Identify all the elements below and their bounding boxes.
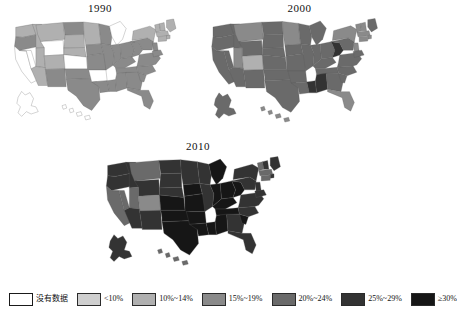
legend-item-ge30: ≥30% xyxy=(411,293,457,306)
legend: 没有数据<10%10%~14%15%~19%20%~24%25%~29%≥30% xyxy=(0,288,401,310)
legend-swatch-lt10 xyxy=(77,293,101,306)
state-hi-1 xyxy=(261,106,266,111)
legend-swatch-b10_14 xyxy=(132,293,156,306)
state-ar xyxy=(288,71,307,83)
state-ut xyxy=(129,187,139,209)
state-me xyxy=(167,19,177,32)
legend-label-lt10: <10% xyxy=(104,294,123,304)
state-hi-2 xyxy=(69,108,74,113)
state-ri xyxy=(167,35,171,39)
map-panel-1990: 1990 xyxy=(2,2,198,138)
legend-item-nodata: 没有数据 xyxy=(9,293,68,306)
map-svg-2010 xyxy=(96,154,301,282)
state-ut xyxy=(234,48,244,69)
state-me xyxy=(270,157,280,171)
state-nm xyxy=(139,210,161,229)
state-ar xyxy=(89,70,107,82)
state-co xyxy=(242,55,263,70)
map-panel-2000: 2000 xyxy=(200,2,399,138)
state-co xyxy=(138,195,160,211)
state-hi-4 xyxy=(85,115,91,120)
state-nm xyxy=(243,70,264,88)
state-mi xyxy=(208,159,226,185)
state-nj xyxy=(353,43,359,52)
state-fl xyxy=(328,89,355,111)
state-al xyxy=(315,73,327,93)
state-al xyxy=(115,72,127,91)
state-nh xyxy=(360,22,366,31)
map-title-1990: 1990 xyxy=(2,2,198,16)
legend-label-ge30: ≥30% xyxy=(438,294,457,304)
legend-label-b15_19: 15%~19% xyxy=(229,294,263,304)
legend-swatch-ge30 xyxy=(411,293,435,306)
state-mt xyxy=(129,160,160,180)
state-mi xyxy=(309,21,326,45)
state-me xyxy=(368,19,378,32)
state-hi-1 xyxy=(62,105,67,110)
legend-item-b25_29: 25%~29% xyxy=(341,293,402,306)
state-sd xyxy=(64,34,85,48)
state-mt xyxy=(234,22,264,42)
state-ri xyxy=(270,174,274,178)
legend-item-b10_14: 10%~14% xyxy=(132,293,193,306)
state-ar xyxy=(186,212,206,225)
state-nh xyxy=(262,160,268,169)
state-ak xyxy=(108,235,131,262)
map-title-2000: 2000 xyxy=(200,2,399,16)
state-nj xyxy=(152,43,158,51)
legend-label-b20_24: 20%~24% xyxy=(299,294,333,304)
map-title-2010: 2010 xyxy=(92,140,304,154)
state-al xyxy=(215,214,228,234)
state-md xyxy=(254,190,266,198)
state-nd xyxy=(262,22,283,35)
map-panel-2010: 2010 xyxy=(92,140,304,282)
state-fl xyxy=(127,88,153,109)
state-nj xyxy=(254,182,260,191)
map-svg-1990 xyxy=(5,16,195,136)
state-mn xyxy=(180,160,199,185)
legend-item-b15_19: 15%~19% xyxy=(202,293,263,306)
legend-swatch-b15_19 xyxy=(202,293,226,306)
state-ct xyxy=(158,36,166,41)
state-ct xyxy=(261,175,270,181)
state-nm xyxy=(45,69,66,87)
state-mt xyxy=(36,23,65,42)
state-hi-4 xyxy=(284,117,290,122)
state-ks xyxy=(262,55,286,70)
state-hi-2 xyxy=(268,110,273,115)
state-ak xyxy=(214,93,236,119)
state-ri xyxy=(368,35,372,39)
legend-item-b20_24: 20%~24% xyxy=(272,293,333,306)
state-sd xyxy=(159,173,181,188)
legend-label-b25_29: 25%~29% xyxy=(368,294,402,304)
state-sd xyxy=(262,34,283,48)
state-ut xyxy=(36,48,46,68)
state-mn xyxy=(83,22,101,45)
state-hi-3 xyxy=(275,114,281,119)
state-mi xyxy=(110,21,127,45)
legend-item-lt10: <10% xyxy=(77,293,123,306)
legend-label-nodata: 没有数据 xyxy=(36,294,68,304)
state-hi-4 xyxy=(181,260,187,265)
state-hi-1 xyxy=(157,249,162,254)
state-co xyxy=(44,55,65,70)
state-nd xyxy=(63,22,84,35)
state-ak xyxy=(17,91,38,116)
state-hi-2 xyxy=(165,253,170,258)
map-svg-2000 xyxy=(202,16,397,138)
state-md xyxy=(353,50,364,57)
state-mn xyxy=(282,22,300,46)
legend-label-b10_14: 10%~14% xyxy=(159,294,193,304)
state-hi-3 xyxy=(76,112,82,117)
legend-swatch-b25_29 xyxy=(341,293,365,306)
legend-swatch-nodata xyxy=(9,293,33,306)
legend-swatch-b20_24 xyxy=(272,293,296,306)
state-ks xyxy=(64,55,88,69)
state-md xyxy=(152,50,163,57)
state-ct xyxy=(359,36,368,41)
state-hi-3 xyxy=(172,256,178,261)
state-nd xyxy=(158,160,180,174)
state-nh xyxy=(159,23,165,31)
state-fl xyxy=(227,231,255,254)
